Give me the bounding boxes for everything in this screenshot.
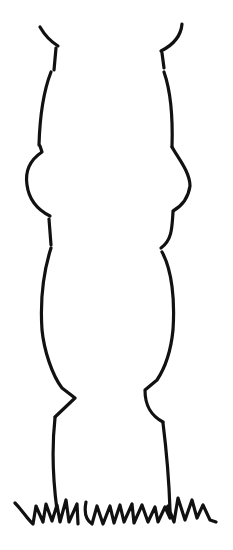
grass — [15, 498, 216, 524]
left-knee-bulge — [27, 146, 50, 216]
right-knee-bulge — [172, 147, 190, 211]
left-upper-segment — [54, 48, 56, 70]
right-top-curve — [161, 24, 182, 51]
leg-outline-drawing — [0, 0, 233, 550]
right-calf-line — [145, 252, 174, 422]
right-ankle-line — [163, 423, 170, 510]
left-top-curve — [40, 27, 58, 46]
left-thigh-line — [39, 72, 51, 145]
left-ankle-line — [53, 418, 57, 510]
right-upper-segment — [162, 53, 164, 68]
right-thigh-line — [164, 72, 172, 147]
left-knee-lower — [49, 219, 51, 245]
right-knee-lower — [161, 212, 173, 248]
left-calf-line — [41, 248, 75, 417]
